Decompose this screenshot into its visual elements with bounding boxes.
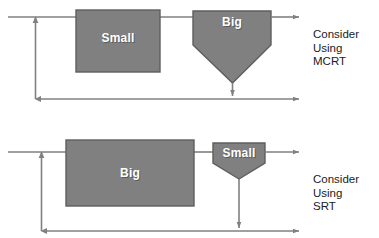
mcrt-caption-line-3: MCRT — [313, 55, 359, 69]
srt-caption-line-2: Using — [313, 187, 359, 201]
srt-caption: Consider Using SRT — [313, 173, 359, 214]
srt-caption-line-3: SRT — [313, 200, 359, 214]
srt-caption-line-1: Consider — [313, 173, 359, 187]
mcrt-caption-line-2: Using — [313, 42, 359, 56]
mcrt-caption: Consider Using MCRT — [313, 28, 359, 69]
diagram-srt — [8, 140, 299, 234]
diagram-mcrt — [8, 10, 299, 102]
mcrt-clarifier-shape — [193, 11, 271, 83]
srt-clarifier-shape — [213, 143, 265, 179]
srt-reactor-shape — [66, 140, 194, 206]
mcrt-caption-line-1: Consider — [313, 28, 359, 42]
diagram-canvas: Small Big Consider Using MCRT Big Small … — [0, 0, 379, 238]
mcrt-reactor-shape — [76, 10, 160, 72]
